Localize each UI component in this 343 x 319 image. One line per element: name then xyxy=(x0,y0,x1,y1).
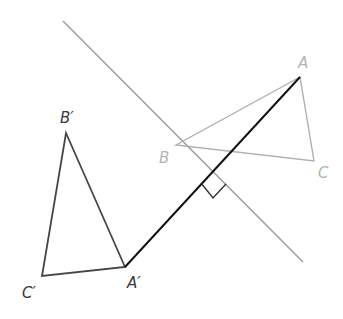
label-c-prime: C′ xyxy=(22,284,36,302)
label-a-prime: A′ xyxy=(126,274,141,292)
image-triangle-a-prime-b-prime-c-prime xyxy=(42,133,125,276)
segment-a-a-prime xyxy=(125,77,300,267)
label-c: C xyxy=(318,164,329,182)
label-b-prime: B′ xyxy=(60,109,74,127)
label-b: B xyxy=(159,149,169,167)
reflection-diagram: A B C A′ B′ C′ xyxy=(0,0,343,319)
original-triangle-abc xyxy=(176,77,314,161)
label-a: A xyxy=(297,54,308,72)
right-angle-marker xyxy=(201,183,226,198)
